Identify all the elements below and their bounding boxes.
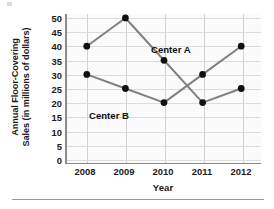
plot-area: Center A Center B — [65, 14, 261, 164]
data-point — [161, 57, 168, 64]
x-axis-tick-label: 2009 — [114, 166, 135, 177]
y-axis-tick-label: 15 — [52, 112, 62, 123]
x-axis-tick-label: 2012 — [231, 166, 252, 177]
series-label-center-a: Center A — [151, 44, 191, 55]
series-lines-svg — [67, 14, 261, 163]
data-point — [199, 71, 206, 78]
y-axis-title-line-1: Annual Floor-Covering — [10, 38, 20, 135]
y-axis-tick-label: 35 — [52, 55, 62, 66]
x-axis-title: Year — [65, 182, 261, 193]
y-axis-title-line-2: Sales (in millions of dollars) — [21, 27, 32, 146]
y-axis-tick-label: 50 — [52, 13, 62, 24]
plot-inner: Center A Center B — [67, 14, 261, 163]
data-point — [238, 85, 245, 92]
y-axis-tick-label: 20 — [52, 98, 62, 109]
y-axis-title: Annual Floor-Covering Sales (in millions… — [10, 27, 33, 146]
data-point — [161, 99, 168, 106]
x-axis-tick-labels: 20082009201020112012 — [65, 166, 261, 180]
y-axis-title-container: Annual Floor-Covering Sales (in millions… — [4, 12, 38, 162]
data-point — [122, 15, 129, 22]
y-axis-tick-label: 5 — [57, 140, 62, 151]
data-point — [83, 71, 90, 78]
x-axis-tick-label: 2010 — [153, 166, 174, 177]
data-point — [83, 43, 90, 50]
data-point — [122, 85, 129, 92]
data-point — [238, 43, 245, 50]
y-axis-tick-label: 30 — [52, 69, 62, 80]
page-speck-artifact — [7, 2, 12, 6]
x-axis-tick-label: 2008 — [75, 166, 96, 177]
y-axis-tick-label: 0 — [57, 155, 62, 166]
footer-divider — [12, 199, 264, 200]
y-axis-tick-label: 10 — [52, 126, 62, 137]
series-label-center-b: Center B — [89, 110, 129, 121]
y-axis-tick-label: 40 — [52, 41, 62, 52]
y-axis-tick-label: 45 — [52, 27, 62, 38]
x-axis-tick-label: 2011 — [192, 166, 212, 177]
y-axis-tick-labels: 05101520253035404550 — [38, 18, 62, 160]
y-axis-tick-label: 25 — [52, 84, 62, 95]
line-chart-figure: Annual Floor-Covering Sales (in millions… — [0, 0, 274, 209]
data-point — [199, 99, 206, 106]
